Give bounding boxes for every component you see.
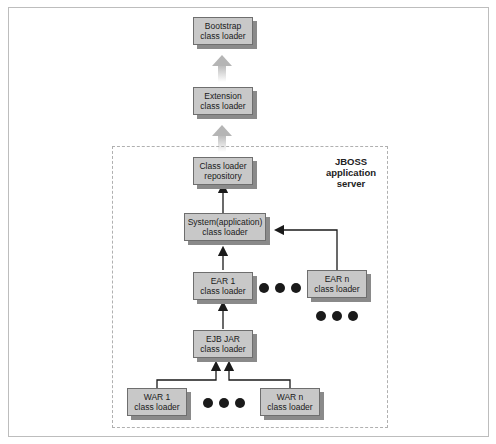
node-label: repository — [204, 171, 241, 181]
node-ear1-class-loader: EAR 1 class loader — [193, 272, 253, 300]
node-label: EAR n — [325, 274, 350, 284]
thick-arrow-extension-to-bootstrap — [212, 55, 232, 82]
node-bootstrap-class-loader: Bootstrap class loader — [193, 17, 253, 45]
ellipsis-dot — [259, 283, 269, 293]
ellipsis-dot — [316, 311, 326, 321]
container-label-line1: JBOSS application — [318, 156, 384, 178]
node-label: class loader — [314, 284, 359, 294]
node-label: class loader — [202, 227, 247, 237]
node-label: Class loader — [199, 161, 246, 171]
node-ejbjar-class-loader: EJB JAR class loader — [193, 330, 253, 358]
node-extension-class-loader: Extension class loader — [193, 87, 253, 115]
node-warn-class-loader: WAR n class loader — [260, 388, 320, 416]
ellipsis-dot — [348, 311, 358, 321]
node-label: EAR 1 — [211, 276, 236, 286]
ellipsis-dot — [235, 398, 245, 408]
container-label-line2: server — [318, 178, 384, 189]
container-label: JBOSS application server — [318, 156, 384, 189]
node-war1-class-loader: WAR 1 class loader — [127, 388, 187, 416]
ellipsis-dot — [291, 283, 301, 293]
ellipsis-dot — [219, 398, 229, 408]
node-label: Bootstrap — [205, 21, 241, 31]
node-label: WAR n — [277, 392, 304, 402]
node-label: class loader — [134, 402, 179, 412]
node-label: class loader — [200, 31, 245, 41]
node-label: class loader — [200, 344, 245, 354]
node-earn-class-loader: EAR n class loader — [307, 270, 367, 298]
node-label: WAR 1 — [144, 392, 171, 402]
node-label: System(application) — [188, 217, 263, 227]
ellipsis-dot — [332, 311, 342, 321]
node-system-class-loader: System(application) class loader — [184, 213, 266, 241]
node-label: class loader — [267, 402, 312, 412]
node-label: class loader — [200, 286, 245, 296]
ellipsis-dot — [203, 398, 213, 408]
node-class-loader-repository: Class loader repository — [193, 157, 253, 185]
ellipsis-dot — [275, 283, 285, 293]
node-label: class loader — [200, 101, 245, 111]
node-label: Extension — [204, 91, 241, 101]
node-label: EJB JAR — [206, 334, 240, 344]
